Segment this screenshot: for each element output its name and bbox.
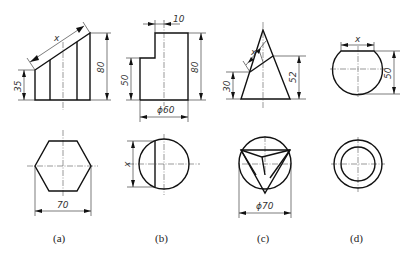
panel-c-front-view: x 30 52 [222, 22, 306, 108]
dim-d-x: x [354, 34, 361, 44]
dim-b-phi60: ϕ60 [157, 105, 175, 115]
dim-b-10: 10 [173, 14, 185, 24]
dim-a-70: 70 [57, 200, 69, 210]
caption-b: (b) [155, 232, 168, 245]
panel-c: x 30 52 [222, 22, 306, 245]
panel-a: x 35 80 70 (a) [13, 22, 111, 245]
dim-a-35: 35 [13, 80, 23, 92]
panel-b: 10 50 80 ϕ60 [120, 14, 206, 245]
dim-c-phi70: ϕ70 [256, 201, 274, 211]
panel-d: x 50 (d) [330, 34, 400, 245]
caption-c: (c) [257, 232, 270, 245]
caption-a: (a) [53, 232, 66, 245]
dim-b-80: 80 [190, 61, 200, 73]
panel-b-front-view: 10 50 80 ϕ60 [120, 14, 206, 122]
caption-d: (d) [350, 232, 363, 245]
panel-d-front-view: x 50 [330, 34, 400, 97]
dim-b-x: x [122, 161, 132, 168]
dim-b-50: 50 [120, 74, 130, 86]
projection-drawing: x 35 80 70 (a) [0, 0, 412, 257]
panel-b-top-view: x [122, 134, 200, 195]
dim-c-52: 52 [288, 71, 298, 83]
panel-a-top-view: 70 [27, 130, 98, 216]
dim-c-x: x [250, 47, 257, 57]
panel-a-front-view: x 35 80 [13, 22, 111, 110]
panel-d-top-view [331, 137, 385, 192]
dim-a-80: 80 [96, 61, 106, 73]
panel-c-top-view: ϕ70 [239, 136, 291, 218]
dim-a-x: x [53, 33, 60, 43]
dim-d-50: 50 [383, 67, 393, 79]
dim-c-30: 30 [222, 80, 232, 92]
